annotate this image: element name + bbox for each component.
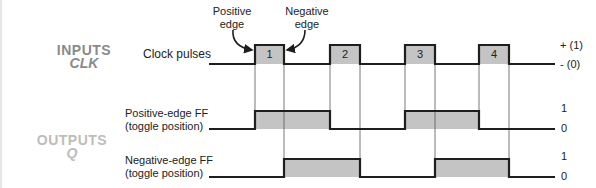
pulse-number-2: 2: [342, 48, 348, 60]
pulse-number-1: 1: [266, 48, 272, 60]
pulse-number-4: 4: [491, 48, 497, 60]
negative-edge-arrow-icon: [287, 30, 305, 50]
timing-diagram: 1 2 3 4: [0, 0, 596, 188]
pulse-number-3: 3: [417, 48, 423, 60]
negative-ff-fills: [284, 159, 509, 177]
clock-pulse-numbers: 1 2 3 4: [266, 48, 497, 60]
positive-edge-arrow-icon: [233, 30, 252, 50]
positive-ff-fills: [255, 111, 479, 129]
